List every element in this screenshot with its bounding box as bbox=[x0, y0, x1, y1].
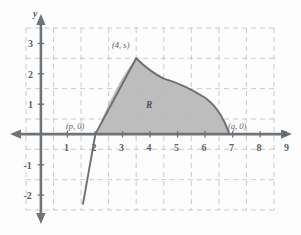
x-axis-arrow-left bbox=[10, 129, 21, 138]
right-intercept-label: (q, 0) bbox=[228, 122, 246, 131]
region-label-R: R bbox=[146, 101, 152, 111]
x-tick-label-6: 6 bbox=[202, 143, 207, 153]
x-tick-label-2: 2 bbox=[92, 143, 97, 153]
graph-figure: 1 2 3 4 5 6 7 8 9 3 2 1 -1 -2 y x (p, 0)… bbox=[0, 0, 301, 235]
y-tick-label-1: 1 bbox=[28, 100, 33, 110]
y-axis-arrow-up bbox=[36, 14, 45, 25]
coordinate-plane bbox=[0, 0, 301, 235]
y-tick-label-2: 2 bbox=[28, 70, 33, 80]
left-intercept-label: (p, 0) bbox=[66, 122, 84, 131]
x-tick-label-9: 9 bbox=[284, 143, 289, 153]
x-tick-label-1: 1 bbox=[64, 143, 69, 153]
y-tick-label-neg2: -2 bbox=[24, 191, 32, 201]
x-tick-label-5: 5 bbox=[174, 143, 179, 153]
y-axis-label: y bbox=[33, 9, 37, 19]
x-tick-label-3: 3 bbox=[119, 143, 124, 153]
y-axis-arrow-down bbox=[36, 213, 45, 224]
x-tick-label-7: 7 bbox=[229, 143, 234, 153]
y-tick-label-3: 3 bbox=[28, 39, 33, 49]
peak-point-label: (4, s) bbox=[112, 41, 129, 50]
x-axis-label: x bbox=[282, 128, 287, 138]
y-tick-label-neg1: -1 bbox=[24, 161, 32, 171]
x-tick-label-4: 4 bbox=[147, 143, 152, 153]
x-tick-label-8: 8 bbox=[257, 143, 262, 153]
